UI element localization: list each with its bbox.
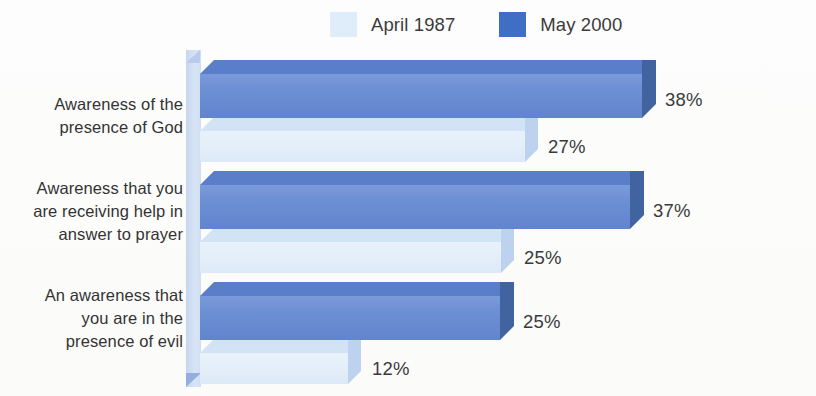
bar-side-face [501,229,514,273]
category-line: you are in the [0,307,183,330]
bar-front-face [200,296,500,340]
bar-chart: April 1987 May 2000 Awareness of the pre… [0,0,816,396]
bar-front-face [200,185,630,229]
value-label-april-1987-presence-of-god: 27% [548,136,586,158]
category-line: answer to prayer [0,223,183,246]
value-label-may-2000-presence-of-god: 38% [665,89,703,111]
category-line: Awareness of the [0,93,183,116]
bar-front-face [200,353,348,384]
category-line: Awareness that you [0,177,183,200]
bar-side-face [500,282,514,340]
bar-side-face [525,118,538,162]
category-axis-labels: Awareness of the presence of God Awarene… [0,0,183,396]
category-line: presence of evil [0,330,183,353]
bar-top-face [200,282,514,296]
bar-side-face [630,171,644,229]
bar-front-face [200,74,642,118]
legend-swatch-dark-blue-icon [499,12,526,37]
category-line: An awareness that [0,284,183,307]
legend-label-may-2000: May 2000 [540,14,622,36]
bar-front-face [200,131,525,162]
category-label-presence-of-god: Awareness of the presence of God [0,93,183,139]
value-label-may-2000-answer-to-prayer: 37% [653,200,691,222]
chart-legend: April 1987 May 2000 [330,12,622,37]
bar-top-face [200,340,361,353]
bar-side-face [348,340,361,384]
category-line: presence of God [0,116,183,139]
legend-item-may-2000[interactable]: May 2000 [499,12,622,37]
bar-top-face [200,60,656,74]
value-label-april-1987-presence-of-evil: 12% [372,358,410,380]
bar-top-face [200,171,644,185]
bar-side-face [642,60,656,118]
value-label-may-2000-presence-of-evil: 25% [523,311,561,333]
bar-top-face [200,118,538,131]
category-line: are receiving help in [0,200,183,223]
value-label-april-1987-answer-to-prayer: 25% [524,247,562,269]
value-axis-wall [186,50,201,387]
legend-label-april-1987: April 1987 [371,14,455,36]
bar-top-face [200,229,514,242]
category-label-help-in-answer-to-prayer: Awareness that you are receiving help in… [0,177,183,246]
bar-front-face [200,242,501,273]
legend-swatch-light-blue-icon [330,12,357,37]
legend-item-april-1987[interactable]: April 1987 [330,12,455,37]
category-label-presence-of-evil: An awareness that you are in the presenc… [0,284,183,353]
